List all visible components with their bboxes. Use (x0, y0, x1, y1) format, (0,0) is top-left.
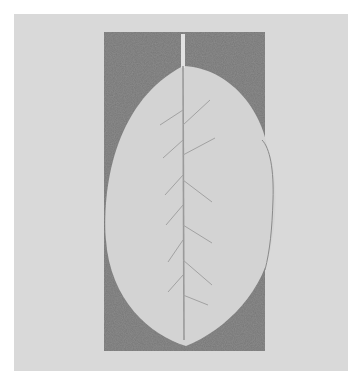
leaf-rubbing-illustration (0, 0, 362, 389)
leaf-petiole (181, 34, 185, 68)
leaf-midrib (183, 66, 184, 340)
